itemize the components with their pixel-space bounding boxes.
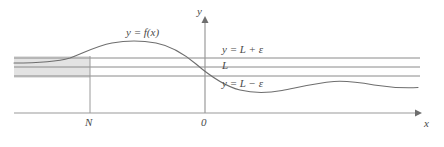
figure-canvas [0, 0, 444, 147]
y-axis-label: y [197, 6, 202, 17]
x-axis-label: x [424, 118, 429, 129]
upper-bound-label: y = L + ε [222, 44, 263, 55]
limit-value-label: L [222, 60, 228, 71]
n-marker-label: N [85, 117, 92, 128]
origin-label: 0 [201, 117, 207, 128]
limit-figure: y = f(x) y = L + ε L y = L − ε N 0 y x [0, 0, 444, 147]
function-label: y = f(x) [126, 27, 159, 38]
lower-bound-label: y = L − ε [222, 78, 263, 89]
